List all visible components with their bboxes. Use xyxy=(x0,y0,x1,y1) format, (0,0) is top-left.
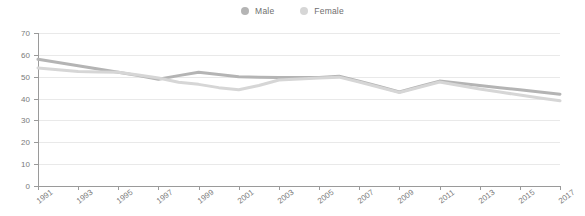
x-axis-label: 1993 xyxy=(75,188,95,206)
x-axis-label: 1995 xyxy=(115,188,135,206)
x-axis-label: 1999 xyxy=(195,188,215,206)
x-tick-mark xyxy=(118,186,119,190)
x-tick-mark xyxy=(38,186,39,190)
x-tick-mark xyxy=(319,186,320,190)
x-axis-label: 2003 xyxy=(276,188,296,206)
x-tick-mark xyxy=(520,186,521,190)
x-axis-label: 2001 xyxy=(236,188,256,206)
x-tick-mark xyxy=(239,186,240,190)
x-axis-label: 2017 xyxy=(557,188,577,206)
series-lines xyxy=(38,33,560,186)
x-tick-mark xyxy=(440,186,441,190)
line-chart: Male Female 010203040506070 199119931995… xyxy=(0,0,585,216)
x-axis-label: 2005 xyxy=(316,188,336,206)
x-tick-mark xyxy=(158,186,159,190)
x-axis-label: 2011 xyxy=(437,188,456,205)
x-tick-mark xyxy=(199,186,200,190)
x-tick-mark xyxy=(560,186,561,190)
x-tick-mark xyxy=(279,186,280,190)
x-axis-label: 1997 xyxy=(155,188,175,206)
x-axis-label: 1991 xyxy=(35,188,55,206)
x-tick-mark xyxy=(399,186,400,190)
x-axis-label: 2015 xyxy=(517,188,537,206)
x-tick-mark xyxy=(480,186,481,190)
x-axis-label: 2009 xyxy=(396,188,416,206)
x-tick-mark xyxy=(78,186,79,190)
x-tick-mark xyxy=(359,186,360,190)
x-axis-label: 2013 xyxy=(476,188,496,206)
x-axis-label: 2007 xyxy=(356,188,376,206)
